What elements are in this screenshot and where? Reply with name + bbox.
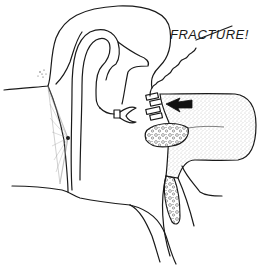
fracture-label: FRACTURE! bbox=[170, 27, 249, 42]
speckle-cluster bbox=[38, 69, 47, 77]
ossicles bbox=[100, 93, 162, 123]
lower-contour bbox=[12, 186, 176, 264]
semicircular-canal bbox=[71, 30, 148, 190]
cell-oval-lower bbox=[163, 166, 222, 256]
ear-diagram: FRACTURE! bbox=[0, 0, 259, 274]
